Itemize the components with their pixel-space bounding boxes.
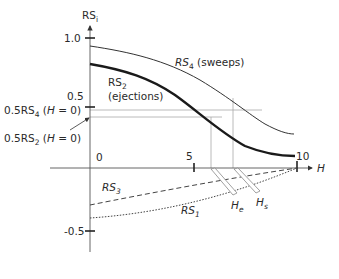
y-tick-label-1: 1.0 <box>64 32 81 44</box>
he-pointer-arrow <box>211 168 237 195</box>
rs1-label: RS1 <box>181 204 200 219</box>
rs2-label: RS2 <box>108 76 127 91</box>
half-rs2-annotation: 0.5RS2 (H = 0) <box>4 132 81 147</box>
rs3-curve <box>90 168 297 205</box>
hs-label: Hs <box>256 196 268 211</box>
y-tick-label-05: 0.5 <box>67 90 84 102</box>
y-axis-label: RSi <box>82 9 98 24</box>
x-axis-label: H <box>317 162 325 174</box>
y-tick-label-neg05: -0.5 <box>64 225 85 237</box>
half-rs2-callout-arrow <box>70 118 89 130</box>
hole-size-quadrant-diagram: RSi 1.0 0.5 0 -0.5 5 10 H RS4 (sweeps) R… <box>0 0 339 279</box>
he-label: He <box>231 199 244 214</box>
rs3-label: RS3 <box>102 181 121 196</box>
x-tick-label-10: 10 <box>296 150 309 162</box>
rs4-label: RS4 (sweeps) <box>175 56 244 71</box>
x-tick-label-5: 5 <box>186 150 193 162</box>
half-rs4-annotation: 0.5RS4 (H = 0) <box>4 104 81 119</box>
curves <box>90 46 297 218</box>
y-tick-label-0: 0 <box>96 151 103 163</box>
hole-size-pointers <box>211 168 260 195</box>
guide-lines <box>90 98 262 168</box>
rs2-desc: (ejections) <box>108 90 163 102</box>
